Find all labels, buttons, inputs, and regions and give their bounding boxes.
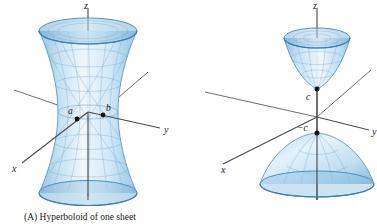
point-negative-c-label: −c <box>297 123 308 133</box>
panel-a-caption: (A) Hyperboloid of one sheet <box>24 212 136 222</box>
x-axis-label-b: x <box>220 164 226 175</box>
panel-b-diagram: c −c z y x <box>189 0 377 224</box>
point-b-label: b <box>106 103 111 113</box>
y-axis-front-ray-b <box>317 117 369 130</box>
point-a-label: a <box>68 106 73 116</box>
point-c-label: c <box>306 92 311 102</box>
y-axis-label-a: y <box>163 124 169 135</box>
z-axis-label-a: z <box>83 0 88 11</box>
panel-b-hyperboloid-two-sheets: c −c z y x (B) Hyperboloid of two sheets <box>189 0 377 224</box>
panel-a-hyperboloid-one-sheet: a b z y x (A) Hyperboloid of one sheet <box>0 0 189 224</box>
x-axis-label-a: x <box>11 163 17 174</box>
panel-a-diagram: a b z y x <box>0 0 189 224</box>
y-axis-label-b: y <box>371 126 377 137</box>
upper-sheet-surface-b <box>284 28 350 89</box>
point-c-marker <box>315 87 320 92</box>
point-a-marker <box>75 117 80 122</box>
figure-hyperboloids: a b z y x (A) Hyperboloid of one sheet <box>0 0 377 224</box>
point-negative-c-marker <box>315 131 320 136</box>
z-axis-label-b: z <box>312 0 317 11</box>
y-axis-back-ray-b <box>205 92 317 117</box>
point-b-marker <box>101 113 106 118</box>
